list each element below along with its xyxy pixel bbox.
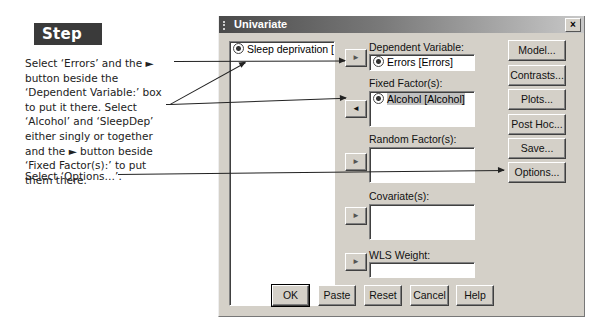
dependent-variable-field[interactable]: Errors [Errors] bbox=[369, 54, 475, 71]
random-factors-list[interactable] bbox=[369, 147, 475, 183]
list-item-sleep-deprivation[interactable]: Sleep deprivation [Slee bbox=[230, 42, 334, 56]
contrasts-button[interactable]: Contrasts... bbox=[508, 65, 566, 86]
dependent-variable-item[interactable]: Errors [Errors] bbox=[370, 55, 474, 69]
step-label: Step 3: bbox=[34, 23, 102, 45]
close-button[interactable]: × bbox=[565, 18, 581, 32]
fixed-factor-item[interactable]: Alcohol [Alcohol] bbox=[370, 92, 474, 106]
move-to-wls-weight-button[interactable]: ► bbox=[345, 253, 367, 271]
random-factors-label: Random Factor(s): bbox=[369, 133, 457, 145]
leader-line-origin bbox=[166, 104, 170, 105]
move-from-fixed-factors-button[interactable]: ◄ bbox=[345, 100, 367, 118]
dialog-title: Univariate bbox=[234, 18, 287, 30]
fixed-factors-list[interactable]: Alcohol [Alcohol] bbox=[369, 91, 475, 127]
window-menu-icon[interactable] bbox=[223, 21, 231, 30]
fixed-factors-label: Fixed Factor(s): bbox=[369, 77, 443, 89]
paste-button[interactable]: Paste bbox=[318, 285, 356, 306]
move-to-covariates-button[interactable]: ► bbox=[345, 207, 367, 225]
move-to-dependent-button[interactable]: ► bbox=[345, 49, 367, 67]
help-button[interactable]: Help bbox=[456, 285, 494, 306]
move-to-random-factors-button[interactable]: ► bbox=[345, 153, 367, 171]
dependent-variable-label: Dependent Variable: bbox=[369, 41, 464, 53]
ok-button[interactable]: OK bbox=[272, 285, 309, 306]
model-button[interactable]: Model... bbox=[508, 40, 566, 61]
wls-weight-label: WLS Weight: bbox=[369, 249, 430, 261]
title-bar[interactable]: Univariate × bbox=[219, 16, 584, 33]
save-button[interactable]: Save... bbox=[508, 138, 566, 159]
reset-button[interactable]: Reset bbox=[364, 285, 402, 306]
post-hoc-button[interactable]: Post Hoc... bbox=[508, 114, 566, 135]
options-button[interactable]: Options... bbox=[508, 162, 566, 183]
nominal-variable-icon bbox=[373, 93, 384, 104]
scale-variable-icon bbox=[373, 56, 384, 67]
instruction-options-text: Select ‘Options…’. bbox=[25, 169, 122, 184]
cancel-button[interactable]: Cancel bbox=[410, 285, 449, 306]
covariates-list[interactable] bbox=[369, 204, 475, 240]
instruction-text: Select ‘Errors’ and the ► button beside … bbox=[25, 56, 175, 187]
covariates-label: Covariate(s): bbox=[369, 190, 429, 202]
plots-button[interactable]: Plots... bbox=[508, 89, 566, 110]
nominal-variable-icon bbox=[233, 43, 244, 54]
wls-weight-field[interactable] bbox=[369, 262, 475, 278]
